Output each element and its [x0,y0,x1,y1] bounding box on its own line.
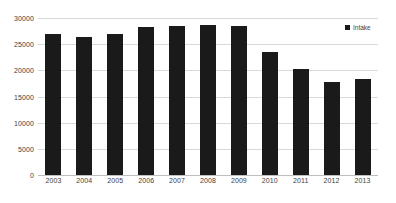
y-axis-tick-label: 20000 [0,67,34,74]
bar[interactable] [355,79,371,175]
x-axis-tick-label: 2013 [347,177,378,184]
x-axis-tick-label: 2007 [162,177,193,184]
plot-area [38,18,378,175]
x-axis-tick-label: 2004 [69,177,100,184]
x-axis-tick-label: 2010 [254,177,285,184]
bar-slot [254,18,285,175]
x-axis-tick-label: 2003 [38,177,69,184]
bar-slot [347,18,378,175]
y-axis-tick-label: 5000 [0,145,34,152]
bar[interactable] [169,26,185,175]
bar[interactable] [324,82,340,175]
bar-slot [316,18,347,175]
y-axis-tick-label: 0 [0,172,34,179]
y-axis-tick-label: 30000 [0,15,34,22]
y-axis-tick-label: 15000 [0,93,34,100]
x-axis-tick-label: 2005 [100,177,131,184]
bar[interactable] [293,69,309,175]
bar[interactable] [76,37,92,175]
bar-slot [69,18,100,175]
x-axis-tick-label: 2011 [285,177,316,184]
x-axis-tick-label: 2009 [223,177,254,184]
bar-slot [223,18,254,175]
y-axis-tick-label: 25000 [0,41,34,48]
bar-slot [193,18,224,175]
x-axis-tick-label: 2006 [131,177,162,184]
bar-slot [100,18,131,175]
x-axis-tick-label: 2008 [193,177,224,184]
bar-chart: 050001000015000200002500030000 200320042… [0,0,396,203]
bar[interactable] [231,26,247,175]
legend-label: Intake [353,24,371,31]
bar-slot [285,18,316,175]
bar[interactable] [138,27,154,175]
bar[interactable] [45,34,61,175]
gridline [38,175,378,176]
legend: Intake [345,24,371,31]
bar-slot [131,18,162,175]
bar[interactable] [200,25,216,175]
y-axis-tick-label: 10000 [0,119,34,126]
bar-slot [162,18,193,175]
square-marker-icon [345,25,350,30]
x-axis-tick-label: 2012 [316,177,347,184]
bar[interactable] [107,34,123,175]
bar-slot [38,18,69,175]
bars-group [38,18,378,175]
bar[interactable] [262,52,278,175]
x-axis-tick-labels: 2003200420052006200720082009201020112012… [38,177,378,184]
